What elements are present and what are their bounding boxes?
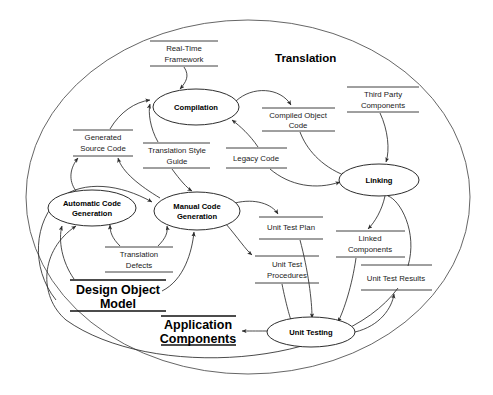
store-linked-components-line1: Linked bbox=[359, 234, 382, 243]
store-application-components[interactable]: Application Components bbox=[160, 316, 236, 346]
flow-design-model-to-manual-gen bbox=[162, 232, 194, 291]
store-real-time-framework[interactable]: Real-Time Framework bbox=[150, 41, 218, 66]
flow-legacy-to-linking bbox=[270, 169, 340, 186]
store-design-object-model[interactable]: Design Object Model bbox=[70, 280, 166, 311]
data-flow-diagram: Real-Time Framework Compiled Object Code… bbox=[0, 0, 493, 395]
flow-framework-to-compilation bbox=[180, 67, 187, 89]
flow-object-code-to-linking bbox=[300, 132, 346, 176]
store-unit-test-procedures-line1: Unit Test bbox=[272, 260, 303, 269]
store-third-party-components-line2: Components bbox=[361, 101, 405, 110]
process-manual-code-generation[interactable]: Manual Code Generation bbox=[154, 192, 240, 230]
store-real-time-framework-line1: Real-Time bbox=[166, 44, 202, 53]
store-generated-source-code-line2: Source Code bbox=[80, 144, 126, 153]
store-legacy-code-line1: Legacy Code bbox=[233, 154, 279, 163]
store-compiled-object-code-line2: Code bbox=[289, 121, 308, 130]
store-design-object-model-line1: Design Object bbox=[76, 283, 161, 297]
store-translation-defects[interactable]: Translation Defects bbox=[105, 247, 173, 272]
process-unit-testing-label: Unit Testing bbox=[289, 328, 333, 337]
store-legacy-code[interactable]: Legacy Code bbox=[226, 148, 287, 168]
store-translation-defects-line1: Translation bbox=[120, 250, 158, 259]
store-application-components-line1: Application bbox=[164, 318, 232, 332]
process-linking[interactable]: Linking bbox=[339, 164, 419, 196]
store-third-party-components-line1: Third Party bbox=[364, 90, 402, 99]
flow-defects-to-auto-gen bbox=[110, 225, 120, 246]
store-unit-test-results-line1: Unit Test Results bbox=[367, 274, 425, 283]
store-linked-components-line2: Components bbox=[348, 245, 392, 254]
diagram-canvas: Real-Time Framework Compiled Object Code… bbox=[0, 0, 493, 395]
process-manual-code-generation-label-line1: Manual Code bbox=[173, 202, 220, 211]
store-generated-source-code[interactable]: Generated Source Code bbox=[73, 130, 133, 156]
store-real-time-framework-line2: Framework bbox=[165, 55, 204, 64]
process-unit-testing[interactable]: Unit Testing bbox=[267, 317, 355, 347]
flow-generated-source-to-compilation bbox=[110, 100, 150, 129]
store-unit-test-plan-line1: Unit Test Plan bbox=[267, 223, 315, 232]
flow-manual-gen-to-generated-source bbox=[118, 158, 160, 198]
store-linked-components[interactable]: Linked Components bbox=[336, 231, 405, 257]
store-generated-source-code-line1: Generated bbox=[85, 133, 122, 142]
store-application-components-line2: Components bbox=[160, 332, 236, 346]
flow-auto-gen-to-generated-source bbox=[71, 158, 78, 191]
process-automatic-code-generation-label-line2: Generation bbox=[72, 209, 112, 218]
store-unit-test-plan[interactable]: Unit Test Plan bbox=[259, 217, 323, 239]
store-unit-test-results[interactable]: Unit Test Results bbox=[361, 265, 432, 290]
flow-manual-gen-to-test-procedures bbox=[226, 224, 252, 255]
store-translation-style-guide-line1: Translation Style bbox=[148, 146, 206, 155]
flow-design-model-to-auto-gen bbox=[61, 226, 75, 279]
process-compilation-label: Compilation bbox=[174, 103, 218, 112]
store-unit-test-procedures-line2: Procedures bbox=[267, 271, 307, 280]
flow-manual-gen-to-test-plan bbox=[235, 201, 278, 214]
store-translation-style-guide-line2: Guide bbox=[167, 157, 188, 166]
process-automatic-code-generation-label-line1: Automatic Code bbox=[63, 199, 121, 208]
process-compilation[interactable]: Compilation bbox=[153, 89, 239, 125]
flow-third-party-to-linking bbox=[380, 113, 388, 162]
store-design-object-model-line2: Model bbox=[100, 297, 136, 311]
flow-test-procedures-to-unit-testing bbox=[282, 284, 292, 323]
flow-compilation-to-object-code bbox=[236, 91, 291, 105]
flow-style-guide-to-manual-gen bbox=[172, 169, 192, 191]
process-manual-code-generation-label-line2: Generation bbox=[177, 212, 217, 221]
flow-linking-to-linked-components bbox=[368, 196, 385, 229]
process-linking-label: Linking bbox=[366, 176, 393, 185]
store-compiled-object-code-line1: Compiled Object bbox=[269, 111, 327, 120]
flow-defects-to-manual-gen bbox=[158, 226, 167, 246]
process-automatic-code-generation[interactable]: Automatic Code Generation bbox=[48, 190, 136, 226]
store-translation-defects-line2: Defects bbox=[126, 261, 153, 270]
flow-linked-components-to-unit-testing bbox=[338, 258, 356, 322]
store-unit-test-procedures[interactable]: Unit Test Procedures bbox=[255, 256, 319, 283]
flow-legacy-to-compilation bbox=[232, 120, 258, 147]
store-translation-style-guide[interactable]: Translation Style Guide bbox=[143, 143, 210, 168]
store-third-party-components[interactable]: Third Party Components bbox=[347, 87, 419, 112]
store-compiled-object-code[interactable]: Compiled Object Code bbox=[262, 108, 335, 131]
diagram-title: Translation bbox=[275, 52, 336, 64]
